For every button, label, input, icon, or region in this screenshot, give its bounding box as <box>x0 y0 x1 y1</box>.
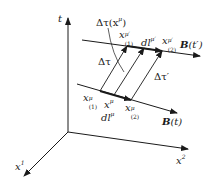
x2-lower-label: xμ(2) <box>125 103 141 113</box>
x2-axis <box>68 132 188 149</box>
delta-tau-arrow-1 <box>100 46 127 91</box>
b-t-label: B(t) <box>162 117 182 127</box>
dl-label: dlμ <box>101 111 115 123</box>
delta-tau-arrow-2 <box>114 48 144 95</box>
x2-prime-label: xμ′(2) <box>162 36 178 46</box>
dl-prime-label: dlμ′ <box>141 36 156 48</box>
t-axis-label: t <box>58 14 62 24</box>
x1-axis <box>24 132 68 176</box>
delta-tau-prime-label: Δτ′ <box>154 72 169 82</box>
x-mu-label: xμ <box>104 98 114 110</box>
spacetime-diagram: t x1 x2 B(t) B(t′) Δτ(xμ) Δτ Δτ′ xμ′(1) … <box>0 0 218 187</box>
delta-tau-label: Δτ <box>98 57 111 67</box>
b-t-prime-label: B(t′) <box>180 40 203 50</box>
x1-axis-label: x1 <box>15 160 24 172</box>
x1-prime-label: xμ′(1) <box>119 30 135 40</box>
x2-axis-label: x2 <box>176 154 185 166</box>
x1-lower-label: xμ(1) <box>83 93 99 103</box>
delta-tau-x-label: Δτ(xμ) <box>96 16 126 28</box>
